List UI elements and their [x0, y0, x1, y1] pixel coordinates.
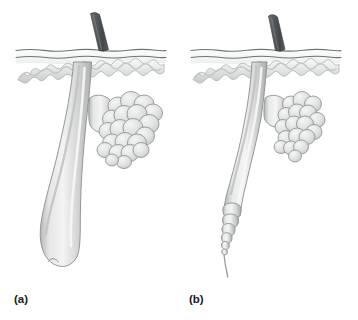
hair-follicle-figure: (a) [0, 0, 358, 320]
figure-container: (a) [0, 0, 358, 320]
panel-label-a: (a) [14, 293, 28, 305]
figure-background [0, 0, 358, 320]
panel-label-b: (b) [189, 293, 204, 305]
